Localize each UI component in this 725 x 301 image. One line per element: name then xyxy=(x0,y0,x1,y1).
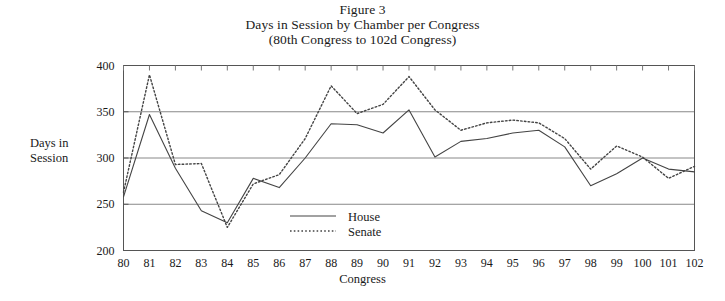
x-tick-label-92: 92 xyxy=(429,256,441,270)
x-tick-label-86: 86 xyxy=(273,256,285,270)
x-tick-label-97: 97 xyxy=(559,256,571,270)
x-tick-label-83: 83 xyxy=(195,256,207,270)
x-tick-label-98: 98 xyxy=(585,256,597,270)
x-tick-label-81: 81 xyxy=(143,256,155,270)
x-tick-label-88: 88 xyxy=(325,256,337,270)
x-tick-label-84: 84 xyxy=(221,256,233,270)
x-tick-label-93: 93 xyxy=(455,256,467,270)
y-tick-label-350: 350 xyxy=(97,105,115,119)
y-tick-label-200: 200 xyxy=(97,244,115,258)
legend-label-senate: Senate xyxy=(348,225,382,239)
x-tick-label-99: 99 xyxy=(611,256,623,270)
x-tick-label-91: 91 xyxy=(403,256,415,270)
line-chart-plot: 2002503003504008081828384858687888990919… xyxy=(0,0,725,301)
x-tick-label-87: 87 xyxy=(299,256,311,270)
y-tick-label-250: 250 xyxy=(97,197,115,211)
legend-label-house: House xyxy=(348,210,380,224)
figure-container: Figure 3 Days in Session by Chamber per … xyxy=(0,0,725,301)
x-tick-label-94: 94 xyxy=(481,256,493,270)
x-tick-label-90: 90 xyxy=(377,256,389,270)
x-tick-label-100: 100 xyxy=(634,256,652,270)
x-tick-label-101: 101 xyxy=(660,256,678,270)
x-tick-label-85: 85 xyxy=(247,256,259,270)
x-tick-label-102: 102 xyxy=(686,256,704,270)
x-tick-label-96: 96 xyxy=(533,256,545,270)
series-line-house xyxy=(124,110,695,223)
x-tick-label-82: 82 xyxy=(169,256,181,270)
x-tick-label-80: 80 xyxy=(118,256,130,270)
y-tick-label-400: 400 xyxy=(97,59,115,73)
x-tick-label-95: 95 xyxy=(507,256,519,270)
y-tick-label-300: 300 xyxy=(97,151,115,165)
x-tick-label-89: 89 xyxy=(351,256,363,270)
